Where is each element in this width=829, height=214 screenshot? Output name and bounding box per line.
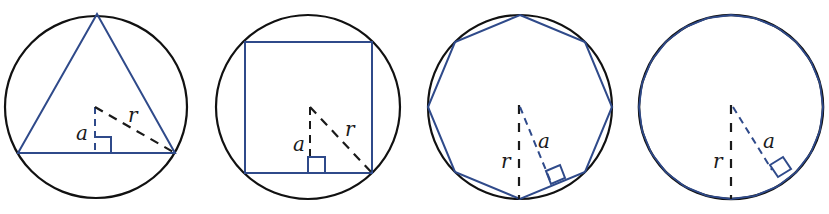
radius-label: r [713,149,724,173]
panel-square: a r [216,15,400,199]
radius-label: r [128,103,139,127]
apothem-label: a [76,121,88,145]
right-angle-marker [308,157,325,173]
right-angle-marker [770,157,791,177]
apothem-label: a [763,129,775,153]
radius-line [310,107,372,173]
panel-triangle: a r [5,14,187,198]
radius-label: r [501,149,512,173]
panel-octagon: a r [428,15,612,199]
inscribed-square [245,42,372,173]
polygon-circle-diagram: a r a r a r [0,0,829,214]
apothem-label: a [538,129,550,153]
right-angle-marker [95,137,111,153]
radius-label: r [345,117,356,141]
apothem-label: a [293,132,305,156]
panel-many-sided-polygon: a r [639,15,823,199]
